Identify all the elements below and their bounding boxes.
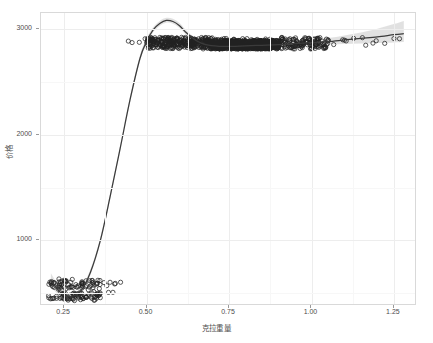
x-axis-title: 克拉重量 — [0, 322, 433, 333]
gridline-vertical — [312, 13, 313, 304]
x-tick-label: 1.00 — [290, 308, 330, 315]
y-axis-title: 价格 — [3, 132, 14, 172]
x-tick-label: 0.25 — [43, 308, 83, 315]
gridline-vertical — [105, 13, 106, 304]
gridline-vertical — [188, 13, 189, 304]
gridline-horizontal — [41, 82, 415, 83]
loess-line — [51, 20, 404, 296]
data-point — [108, 280, 112, 284]
gridline-vertical — [229, 13, 230, 304]
gridline-horizontal — [41, 293, 415, 294]
data-point — [118, 280, 122, 284]
x-tick-label: 0.75 — [208, 308, 248, 315]
confidence-ribbon — [51, 18, 404, 300]
gridline-vertical — [394, 13, 395, 304]
data-point — [97, 287, 101, 291]
y-tick-label: 1000 — [6, 235, 32, 242]
x-tick-label: 1.25 — [373, 308, 413, 315]
scatter-plot-figure: 0.250.500.751.001.25100020003000 克拉重量 价格 — [0, 0, 433, 343]
gridline-vertical — [353, 13, 354, 304]
data-point — [137, 40, 141, 44]
y-tick-label: 3000 — [6, 24, 32, 31]
plot-panel — [40, 12, 416, 305]
y-tickmark — [36, 239, 39, 240]
data-point — [364, 43, 368, 47]
confidence-band — [51, 18, 404, 300]
data-points — [46, 35, 401, 302]
gridline-horizontal — [41, 29, 415, 30]
gridline-vertical — [270, 13, 271, 304]
y-tickmark — [36, 134, 39, 135]
smooth-curve — [51, 20, 404, 296]
gridline-horizontal — [41, 188, 415, 189]
x-tick-label: 0.50 — [126, 308, 166, 315]
y-tickmark — [36, 28, 39, 29]
gridline-horizontal — [41, 135, 415, 136]
data-point — [130, 40, 134, 44]
gridline-vertical — [64, 13, 65, 304]
gridline-horizontal — [41, 240, 415, 241]
gridline-vertical — [147, 13, 148, 304]
